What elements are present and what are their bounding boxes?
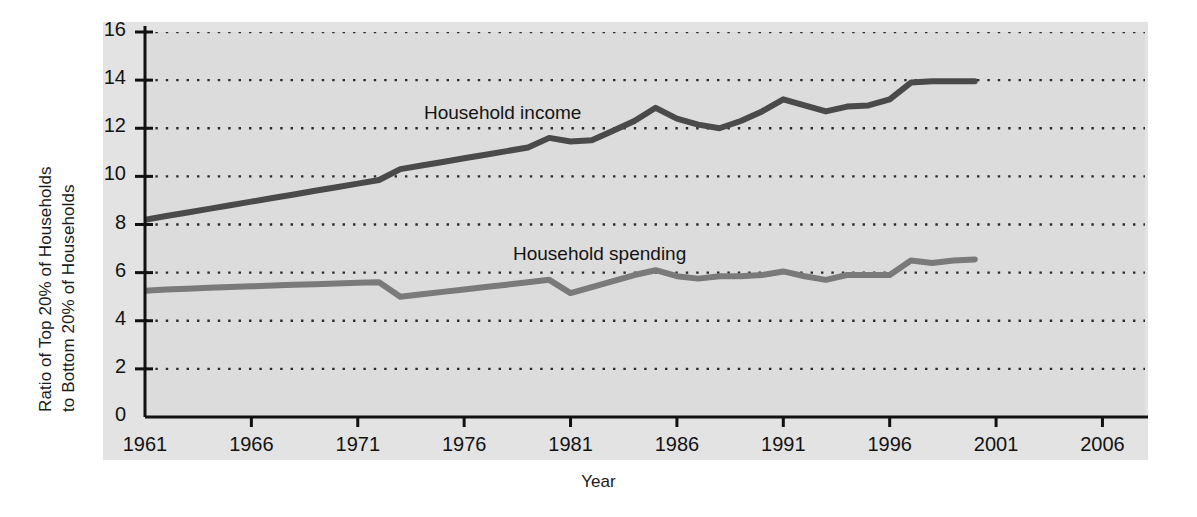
x-tick-label: 1986 bbox=[632, 433, 722, 456]
x-tick-label: 1976 bbox=[419, 433, 509, 456]
y-axis-title: Ratio of Top 20% of Households to Bottom… bbox=[0, 0, 100, 440]
y-tick-label: 8 bbox=[90, 211, 126, 234]
x-tick-label: 1991 bbox=[738, 433, 828, 456]
x-tick-label: 1971 bbox=[313, 433, 403, 456]
plot-svg bbox=[145, 32, 1145, 417]
y-tick-label: 6 bbox=[90, 259, 126, 282]
y-tick-label: 12 bbox=[90, 114, 126, 137]
y-tick-label: 0 bbox=[90, 403, 126, 426]
y-tick-label: 10 bbox=[90, 162, 126, 185]
x-axis-title: Year bbox=[0, 472, 1197, 492]
x-tick-label: 1996 bbox=[845, 433, 935, 456]
x-tick-label: 2001 bbox=[951, 433, 1041, 456]
x-tick-label: 1961 bbox=[100, 433, 190, 456]
chart-figure: Ratio of Top 20% of Households to Bottom… bbox=[0, 0, 1197, 517]
x-tick-label: 1981 bbox=[526, 433, 616, 456]
series-label-household-spending: Household spending bbox=[513, 243, 686, 265]
x-tick-label: 2006 bbox=[1057, 433, 1147, 456]
y-tick-label: 14 bbox=[90, 66, 126, 89]
y-tick-label: 4 bbox=[90, 307, 126, 330]
y-axis-title-line-2: to Bottom 20% of Households bbox=[59, 184, 79, 412]
y-tick-label: 16 bbox=[90, 18, 126, 41]
x-tick-label: 1966 bbox=[206, 433, 296, 456]
y-axis-title-line-1: Ratio of Top 20% of Households bbox=[36, 166, 56, 412]
y-tick-label: 2 bbox=[90, 355, 126, 378]
series-label-household-income: Household income bbox=[424, 102, 581, 124]
plot-area bbox=[145, 32, 1145, 417]
